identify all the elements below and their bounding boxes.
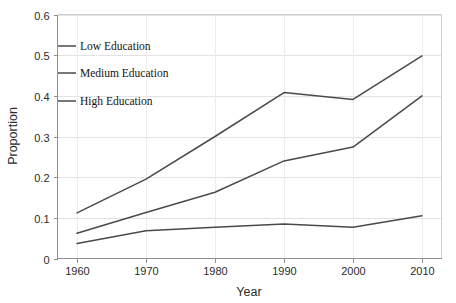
x-tick-label-1980: 1980 — [203, 265, 227, 277]
y-tick-label-0.1: 0.1 — [34, 213, 49, 225]
y-tick-label-0.2: 0.2 — [34, 172, 49, 184]
x-tick-label-2010: 2010 — [410, 265, 434, 277]
x-tick-label-2000: 2000 — [341, 265, 365, 277]
y-tick-label-0: 0 — [43, 254, 49, 266]
chart-canvas: 00.10.20.30.40.50.6 19601970198019902000… — [0, 0, 456, 303]
y-tick-label-0.3: 0.3 — [34, 132, 49, 144]
x-tick-label-1990: 1990 — [272, 265, 296, 277]
x-tick-label-1970: 1970 — [134, 265, 158, 277]
x-tick-label-1960: 1960 — [65, 265, 89, 277]
x-axis-title: Year — [236, 285, 261, 299]
y-tick-label-0.5: 0.5 — [34, 50, 49, 62]
legend-label-low-education: Low Education — [80, 40, 151, 52]
legend-label-high-education: High Education — [80, 95, 153, 108]
legend-label-medium-education: Medium Education — [80, 67, 169, 79]
y-tick-label-0.6: 0.6 — [34, 10, 49, 22]
y-axis-title: Proportion — [6, 107, 20, 165]
y-tick-label-0.4: 0.4 — [34, 91, 49, 103]
line-chart-figure: 00.10.20.30.40.50.6 19601970198019902000… — [0, 0, 456, 303]
